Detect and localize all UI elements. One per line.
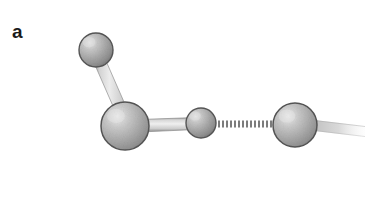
atom-oxygen-acceptor (273, 103, 317, 147)
molecule-diagram (0, 0, 365, 206)
figure-panel: a (0, 0, 365, 206)
atom-hydrogen-upper (79, 33, 113, 67)
atom-oxygen-donor (101, 102, 149, 150)
atom-hydrogen-bridging (186, 108, 216, 138)
